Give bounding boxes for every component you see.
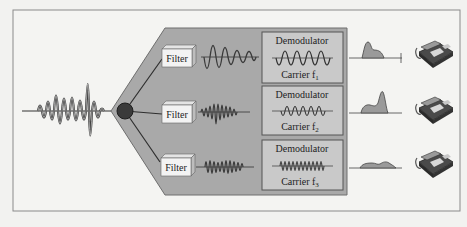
demodulator-box-2: Demodulator Carrier f2	[262, 86, 343, 135]
demodulator-box-1: Demodulator Carrier f1	[262, 32, 343, 83]
filter-label-3: Filter	[165, 162, 187, 173]
filter-label-2: Filter	[166, 109, 188, 120]
filter-label-1: Filter	[166, 53, 188, 64]
filter-box-1: Filter	[162, 45, 196, 67]
filter-box-3: Filter	[161, 154, 195, 176]
demodulator-box-3: Demodulator Carrier f3	[262, 140, 343, 190]
splitter-node	[117, 103, 133, 119]
demodulator-label-1: Demodulator	[276, 35, 329, 46]
demodulator-label-2: Demodulator	[276, 89, 329, 100]
fdm-diagram: Filter Demodulator Carrier f1	[0, 0, 467, 227]
demodulator-label-3: Demodulator	[276, 143, 329, 154]
filter-box-2: Filter	[162, 101, 196, 123]
